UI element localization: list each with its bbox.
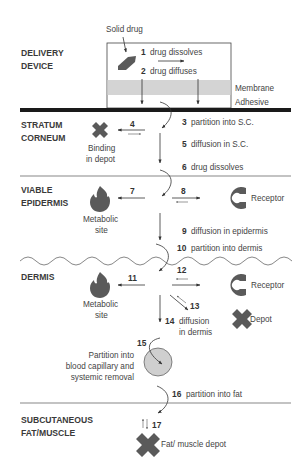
step-6-number: 6 (182, 162, 187, 172)
solid-drug-label: Solid drug (106, 25, 143, 34)
membrane-label: Membrane (235, 84, 275, 93)
metabolic-site-flame-icon (90, 186, 110, 212)
dermal-epidermal-junction-wavy-line (20, 257, 292, 265)
svg-text:VIABLE: VIABLE (21, 185, 53, 195)
step-2-label: drug diffuses (150, 67, 197, 76)
layer-label-subcutaneous: SUBCUTANEOUS FAT/MUSCLE (21, 415, 93, 438)
fat-partition-curve-arrow (157, 386, 168, 413)
step-17-number: 17 (152, 420, 162, 430)
epidermis-entry-curve-arrow (160, 170, 171, 196)
capillary-label-1: Partition into (88, 351, 134, 360)
layer-label-viable-epidermis: VIABLE EPIDERMIS (21, 185, 69, 208)
transdermal-drug-delivery-diagram: DELIVERY DEVICE STRATUM CORNEUM VIABLE E… (0, 0, 307, 462)
svg-text:SUBCUTANEOUS: SUBCUTANEOUS (21, 415, 93, 425)
step-11-number: 11 (128, 273, 137, 283)
capillary-section: 15 Partition into blood capillary and sy… (66, 338, 172, 382)
step-15-number: 15 (137, 338, 147, 348)
step-12-number: 12 (177, 265, 187, 275)
metabolic-site-label-3: Metabolic (83, 300, 118, 309)
fat-muscle-depot-label: Fat/ muscle depot (161, 440, 227, 449)
step-9-label: diffusion in epidermis (191, 227, 268, 236)
capillary-label-2: blood capillary and (66, 362, 135, 371)
metabolic-site-label-4: site (95, 311, 108, 320)
step-6-label: drug dissolves (191, 163, 243, 172)
step-10-label: partition into dermis (191, 244, 262, 253)
step-16-number: 16 (172, 389, 182, 399)
svg-text:DELIVERY: DELIVERY (21, 48, 64, 58)
step-14-label: diffusion (179, 317, 210, 326)
step-14-number: 14 (165, 316, 175, 326)
step-4-number: 4 (130, 119, 135, 129)
metabolic-site-flame-icon-2 (90, 272, 110, 298)
receptor-c-icon (230, 187, 246, 209)
stratum-corneum-section: 3 partition into S.C. 4 Binding in depot… (86, 102, 254, 172)
depot-label: Depot (250, 315, 273, 324)
membrane-layer (108, 80, 231, 95)
step-5-number: 5 (182, 139, 187, 149)
svg-text:STRATUM: STRATUM (21, 120, 62, 130)
svg-text:DERMIS: DERMIS (21, 272, 55, 282)
step-9-number: 9 (182, 226, 187, 236)
capillary-label-3: systemic removal (71, 373, 134, 382)
step-3-number: 3 (182, 117, 187, 127)
receptor-c-icon-2 (230, 274, 246, 296)
delivery-device: Solid drug 1 drug dissolves 2 drug diffu… (106, 25, 275, 108)
svg-text:EPIDERMIS: EPIDERMIS (21, 198, 69, 208)
svg-text:CORNEUM: CORNEUM (21, 133, 65, 143)
step-3-label: partition into S.C. (191, 118, 254, 127)
viable-epidermis-section: 7 Metabolic site 8 Receptor 9 diffusion … (83, 170, 284, 253)
step-10-number: 10 (177, 243, 187, 253)
step-14-label-2: in dermis (179, 328, 212, 337)
step-1-number: 1 (141, 47, 146, 57)
metabolic-site-label-2: site (95, 226, 108, 235)
depot-x-icon-2 (232, 309, 252, 329)
subcutaneous-section: 16 partition into fat 17 Fat/ muscle dep… (136, 386, 243, 457)
metabolic-site-label: Metabolic (83, 215, 118, 224)
fat-muscle-depot-x-icon (136, 433, 160, 457)
receptor-label-2: Receptor (251, 281, 284, 290)
step-16-label: partition into fat (186, 390, 243, 399)
layer-label-delivery-device: DELIVERY DEVICE (21, 48, 64, 71)
svg-text:DEVICE: DEVICE (21, 61, 53, 71)
step-7-number: 7 (130, 186, 135, 196)
binding-label: Binding (88, 144, 116, 153)
adhesive-label: Adhesive (235, 98, 269, 107)
step-2-number: 2 (141, 66, 146, 76)
binding-label-2: in depot (86, 155, 116, 164)
step-1-label: drug dissolves (150, 48, 202, 57)
step-13-number: 13 (190, 301, 200, 311)
blood-capillary-circle (144, 348, 172, 376)
receptor-label: Receptor (251, 194, 284, 203)
step-8-number: 8 (181, 186, 186, 196)
layer-label-stratum-corneum: STRATUM CORNEUM (21, 120, 65, 143)
step-5-label: diffusion in S.C. (191, 140, 248, 149)
skin-surface-line (20, 108, 291, 112)
depot-x-icon (92, 122, 108, 138)
layer-label-dermis: DERMIS (21, 272, 55, 282)
svg-text:FAT/MUSCLE: FAT/MUSCLE (21, 428, 76, 438)
